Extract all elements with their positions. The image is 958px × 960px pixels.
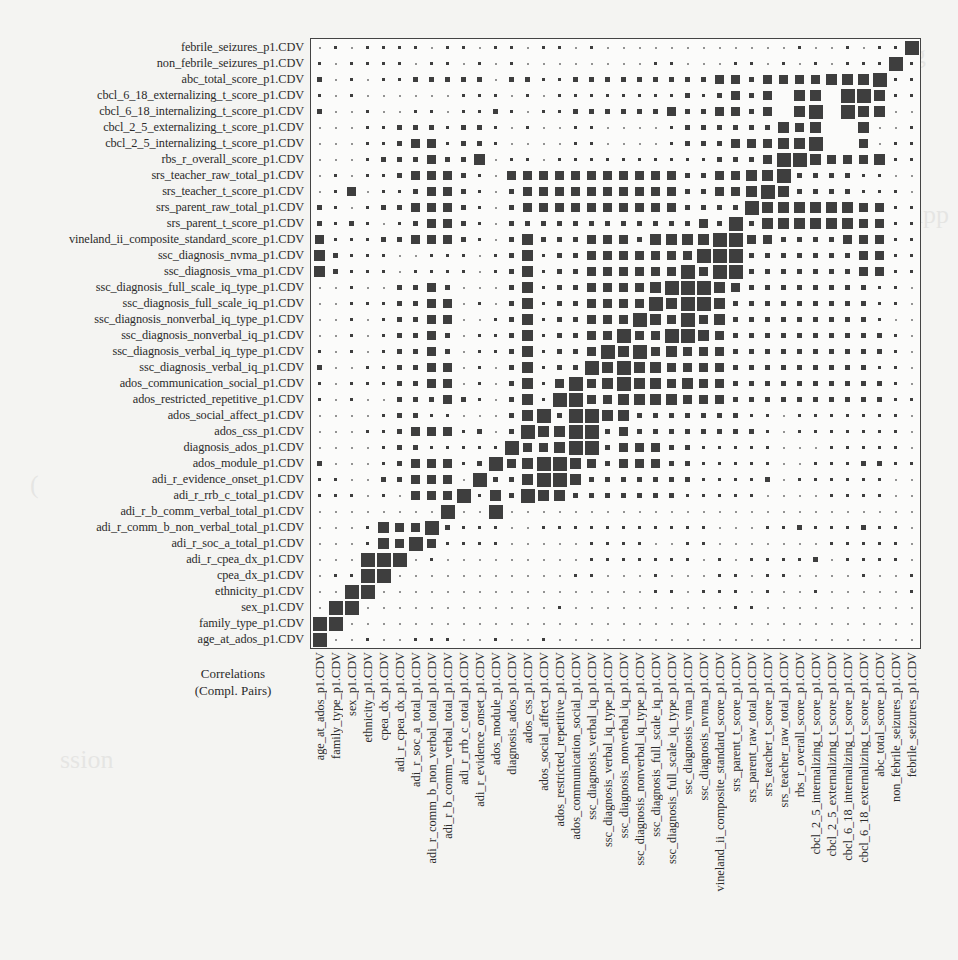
correlation-square [862,574,866,578]
correlation-square [463,63,465,65]
matrix-cell [312,632,328,648]
matrix-cell [616,40,632,56]
matrix-cell [360,216,376,232]
matrix-cell [632,72,648,88]
correlation-square [585,409,599,423]
matrix-cell [696,328,712,344]
correlation-square [557,413,563,419]
correlation-square [350,350,354,354]
matrix-cell [664,104,680,120]
correlation-square [605,429,611,435]
matrix-cell [744,360,760,376]
correlation-square [351,479,353,481]
matrix-cell [616,376,632,392]
correlation-square [431,575,433,577]
correlation-square [911,543,913,545]
matrix-cell [344,360,360,376]
matrix-cell [728,312,744,328]
matrix-cell [504,216,520,232]
correlation-square [815,543,817,545]
correlation-square [635,283,644,292]
matrix-cell [408,520,424,536]
matrix-cell [872,72,888,88]
matrix-cell [856,584,872,600]
correlation-square [510,110,514,114]
correlation-square [829,349,835,355]
correlation-square [351,463,353,465]
correlation-square [447,575,449,577]
correlation-square [622,542,626,546]
matrix-cell [680,168,696,184]
correlation-square [430,110,434,114]
correlation-square [783,479,785,481]
matrix-cell [904,520,920,536]
matrix-cell [744,232,760,248]
matrix-cell [744,72,760,88]
matrix-cell [360,312,376,328]
matrix-cell [888,136,904,152]
matrix-cell [872,600,888,616]
matrix-cell [792,568,808,584]
matrix-cell [776,520,792,536]
matrix-cell [808,280,824,296]
correlation-square [413,333,419,339]
correlation-square [478,238,482,242]
correlation-square [767,495,769,497]
matrix-cell [632,536,648,552]
matrix-cell [584,488,600,504]
row-label: adi_r_b_comm_verbal_total_p1.CDV [120,503,304,519]
correlation-square [699,395,708,404]
correlation-square [910,222,914,226]
matrix-cell [680,72,696,88]
matrix-cell [392,472,408,488]
correlation-square [590,158,594,162]
matrix-cell [824,152,840,168]
correlation-square [846,62,850,66]
matrix-cell [824,392,840,408]
matrix-cell [712,536,728,552]
correlation-square [361,585,375,599]
correlation-square [894,382,898,386]
correlation-square [415,255,417,257]
correlation-square [815,607,817,609]
matrix-cell [536,488,552,504]
matrix-cell [632,184,648,200]
correlation-square [734,478,738,482]
correlation-square [782,526,786,530]
correlation-square [623,623,625,625]
correlation-square [334,238,338,242]
matrix-cell [408,568,424,584]
correlation-square [623,591,625,593]
correlation-square [765,285,771,291]
matrix-cell [584,216,600,232]
matrix-cell [808,632,824,648]
matrix-cell [424,584,440,600]
correlation-square [542,270,546,274]
matrix-cell [712,552,728,568]
correlation-square [351,415,353,417]
correlation-square [623,511,625,513]
matrix-cell [872,392,888,408]
matrix-cell [360,184,376,200]
correlation-square [366,222,370,226]
matrix-cell [504,88,520,104]
correlation-square [605,221,611,227]
matrix-cell [392,440,408,456]
correlation-square [494,254,498,258]
matrix-cell [568,40,584,56]
matrix-cell [872,152,888,168]
correlation-square [427,427,436,436]
correlation-square [701,125,707,131]
matrix-cell [792,200,808,216]
correlation-square [382,126,386,130]
matrix-cell [808,216,824,232]
matrix-cell [392,600,408,616]
correlation-square [351,159,353,161]
matrix-cell [744,568,760,584]
correlation-square [413,413,419,419]
correlation-square [635,187,644,196]
correlation-square [749,381,755,387]
matrix-cell [888,152,904,168]
matrix-cell [856,328,872,344]
matrix-cell [424,472,440,488]
